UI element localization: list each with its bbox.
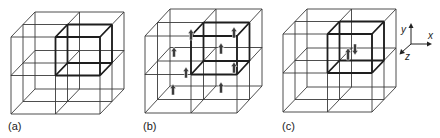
panel-a — [11, 12, 124, 114]
highlighted-unit-cell — [56, 25, 113, 76]
y-axis-arrowhead — [409, 23, 414, 28]
unit-cell-edge — [328, 61, 340, 74]
axes-triad: y x z — [400, 23, 435, 62]
panel-a-label: (a) — [8, 120, 21, 132]
x-axis-arrowhead — [427, 42, 432, 47]
spin-up-arrow-icon — [183, 67, 189, 78]
spin-down-arrow-icon — [352, 44, 358, 55]
lattice-diagram: (a) (b) (c) y x z — [0, 0, 440, 138]
unit-cell-edge — [372, 61, 384, 74]
panel-b — [145, 9, 262, 113]
z-axis-label: z — [404, 51, 410, 62]
unit-cell-edge — [191, 23, 204, 37]
spin-up-arrow-icon — [218, 82, 224, 93]
unit-cell-edge — [100, 63, 112, 76]
panel-c — [283, 9, 396, 112]
unit-cell-edge — [237, 23, 250, 37]
spin-up-arrow-icon — [218, 43, 224, 54]
x-axis-label: x — [427, 30, 434, 41]
unit-cell-edge — [100, 25, 112, 38]
unit-cell-edge — [237, 61, 250, 75]
unit-cell-edge — [328, 22, 340, 35]
spin-up-arrow-icon — [171, 47, 177, 57]
panel-c-label: (c) — [282, 120, 295, 132]
unit-cell-edge — [56, 25, 68, 38]
unit-cell-edge — [372, 22, 384, 35]
y-axis-label: y — [400, 24, 407, 35]
unit-cell-edge — [191, 61, 204, 75]
panel-b-label: (b) — [143, 120, 156, 132]
unit-cell-edge — [56, 63, 68, 76]
